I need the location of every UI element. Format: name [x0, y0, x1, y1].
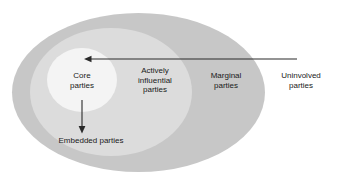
concentric-ellipse-graphic	[0, 0, 337, 183]
diagram-canvas: Core parties Actively influential partie…	[0, 0, 337, 183]
